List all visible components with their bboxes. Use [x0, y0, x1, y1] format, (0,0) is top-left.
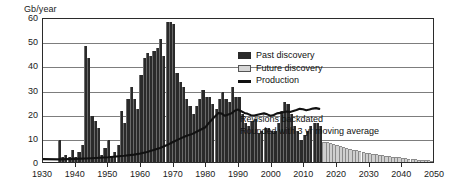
x-tick: [369, 163, 370, 167]
y-tick-label: 40: [0, 61, 38, 71]
legend-swatch-production-icon: [238, 80, 251, 83]
y-tick-label: 0: [0, 158, 38, 168]
chart-annotations: Revisions backdated Rounded with 3 yr mo…: [240, 114, 379, 137]
x-tick-label: 2000: [261, 169, 281, 179]
x-tick-label: 2030: [359, 169, 379, 179]
x-tick-label: 1970: [163, 169, 183, 179]
gridline: [43, 43, 433, 44]
discovery-production-chart: Gb/year 0102030405060 193019401950196019…: [0, 0, 449, 188]
legend-label-production: Production: [256, 75, 299, 86]
y-tick-label: 10: [0, 134, 38, 144]
legend-swatch-past-discovery-icon: [238, 52, 251, 59]
x-tick-label: 1960: [130, 169, 150, 179]
x-tick-label: 2020: [326, 169, 346, 179]
x-tick: [271, 163, 272, 167]
annotation-moving-average: Rounded with 3 yr moving average: [240, 126, 379, 138]
x-tick: [173, 163, 174, 167]
x-tick-label: 2010: [293, 169, 313, 179]
chart-legend: Past discovery Future discovery Producti…: [238, 50, 323, 88]
legend-item-past-discovery: Past discovery: [238, 50, 323, 61]
x-tick: [238, 163, 239, 167]
x-tick: [107, 163, 108, 167]
plot-area: [42, 18, 434, 163]
x-tick-label: 1950: [97, 169, 117, 179]
x-tick: [303, 163, 304, 167]
gridline: [43, 92, 433, 93]
x-tick: [75, 163, 76, 167]
y-tick-label: 60: [0, 13, 38, 23]
x-tick-label: 1930: [32, 169, 52, 179]
legend-item-future-discovery: Future discovery: [238, 63, 323, 74]
annotation-revisions-backdated: Revisions backdated: [240, 114, 379, 126]
y-tick-label: 50: [0, 37, 38, 47]
legend-label-past-discovery: Past discovery: [256, 50, 315, 61]
y-tick-label: 20: [0, 110, 38, 120]
x-tick: [336, 163, 337, 167]
legend-item-production: Production: [238, 75, 323, 86]
legend-label-future-discovery: Future discovery: [256, 63, 323, 74]
x-tick-label: 1940: [65, 169, 85, 179]
x-tick-label: 2040: [391, 169, 411, 179]
legend-swatch-future-discovery-icon: [238, 65, 251, 72]
x-tick: [401, 163, 402, 167]
x-tick-label: 1980: [195, 169, 215, 179]
x-tick: [140, 163, 141, 167]
y-tick-label: 30: [0, 86, 38, 96]
x-tick: [205, 163, 206, 167]
x-tick-label: 1990: [228, 169, 248, 179]
bar-future-discovery: [433, 161, 434, 162]
x-tick-label: 2050: [424, 169, 444, 179]
